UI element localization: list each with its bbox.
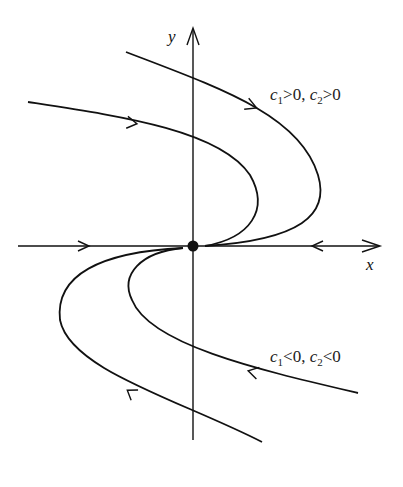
phase-portrait-diagram: y x c1>0, c2>0 c1<0, c2<0 [0, 0, 403, 487]
equilibrium-point [188, 241, 199, 252]
trajectory-upper-outer [126, 52, 321, 246]
relation-2: <0 [323, 347, 341, 366]
y-axis-label: y [166, 27, 176, 46]
trajectory-upper-inner [28, 102, 258, 246]
relation-2: >0 [323, 85, 341, 104]
x-axis-label: x [365, 255, 374, 274]
relation-1: >0, [283, 85, 310, 104]
annotation-upper: c1>0, c2>0 [270, 85, 341, 106]
trajectory-lower-outer [60, 248, 262, 442]
x-axis [18, 240, 380, 252]
annotation-lower: c1<0, c2<0 [270, 347, 341, 368]
trajectory-lower-inner [129, 248, 358, 393]
relation-1: <0, [283, 347, 310, 366]
arrow-lower-outer-icon [125, 387, 139, 402]
y-axis [187, 28, 199, 440]
